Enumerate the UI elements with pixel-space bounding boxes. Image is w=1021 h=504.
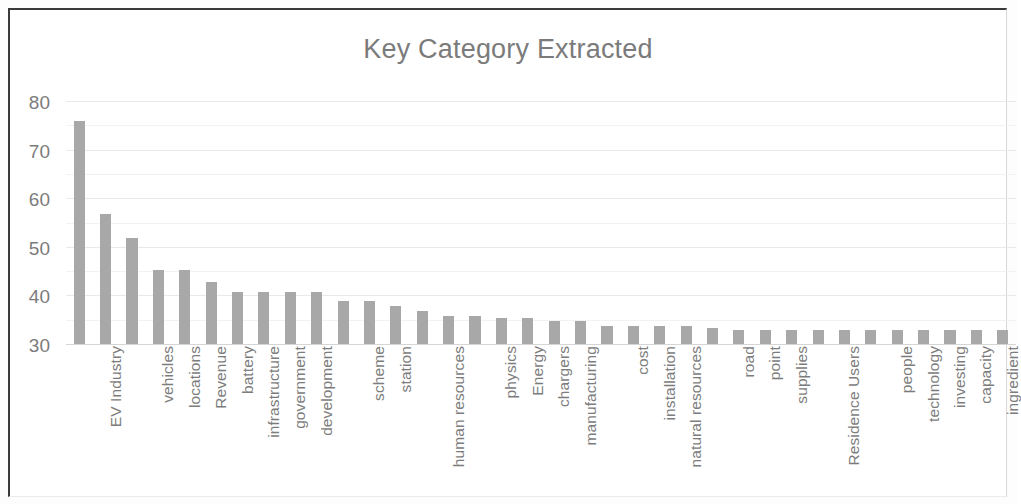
bar: [417, 311, 428, 345]
bar: [179, 270, 190, 345]
x-tick-label: investing: [952, 346, 968, 408]
x-tick-label: Residence Users: [846, 346, 862, 466]
y-tick-label: 40: [29, 287, 50, 306]
x-tick-label: supplies: [794, 346, 810, 404]
y-tick-label: 30: [29, 336, 50, 355]
x-tick-label: technology: [926, 346, 942, 422]
bar: [285, 292, 296, 345]
x-tick-label: Energy: [530, 346, 546, 396]
x-tick-label: scheme: [371, 346, 387, 401]
plot-area: [66, 102, 1016, 345]
bar: [206, 282, 217, 345]
bar: [601, 326, 612, 345]
x-tick-label: physics: [503, 346, 519, 398]
bar: [469, 316, 480, 345]
bar: [575, 321, 586, 345]
bar: [997, 330, 1008, 345]
bar: [813, 330, 824, 345]
bar: [628, 326, 639, 345]
x-tick-label: chargers: [556, 346, 572, 407]
bar: [786, 330, 797, 345]
x-tick-label: locations: [187, 346, 203, 408]
x-tick-label: Revenue: [213, 346, 229, 409]
bar: [681, 326, 692, 345]
y-tick-label: 80: [29, 93, 50, 112]
bar: [364, 301, 375, 345]
bar: [549, 321, 560, 345]
bar: [390, 306, 401, 345]
bar: [839, 330, 850, 345]
x-axis-labels: EV IndustryvehicleslocationsRevenuebatte…: [66, 346, 1016, 504]
bar: [654, 326, 665, 345]
x-tick-label: point: [767, 346, 783, 380]
bar: [944, 330, 955, 345]
x-tick-label: vehicles: [160, 346, 176, 403]
x-tick-label: people: [899, 346, 915, 393]
bar: [496, 318, 507, 345]
x-tick-label: human resources: [451, 346, 467, 467]
bar: [971, 330, 982, 345]
bar-series: [66, 102, 1016, 345]
y-axis: 304050607080: [10, 102, 60, 345]
x-tick-label: manufacturing: [583, 346, 599, 446]
bar: [311, 292, 322, 345]
bar: [892, 330, 903, 345]
y-tick-label: 70: [29, 141, 50, 160]
x-tick-label: ingredient: [1005, 346, 1021, 415]
x-tick-label: capacity: [978, 346, 994, 404]
bar: [443, 316, 454, 345]
x-tick-label: cost: [635, 346, 651, 375]
x-tick-label: road: [741, 346, 757, 377]
x-tick-label: station: [398, 346, 414, 392]
bar: [74, 121, 85, 345]
x-tick-label: infrastructure: [266, 346, 282, 438]
x-tick-label: government: [292, 346, 308, 429]
y-tick-label: 50: [29, 238, 50, 257]
bar: [100, 214, 111, 345]
bar: [865, 330, 876, 345]
x-tick-label: EV Industry: [108, 346, 124, 427]
x-tick-label: natural resources: [688, 346, 704, 467]
bar: [232, 292, 243, 345]
chart-frame: Key Category Extracted 304050607080 EV I…: [8, 8, 1007, 497]
bar: [338, 301, 349, 345]
bar: [126, 238, 137, 345]
y-tick-label: 60: [29, 190, 50, 209]
bar: [153, 270, 164, 345]
x-tick-label: battery: [240, 346, 256, 394]
chart-title: Key Category Extracted: [10, 34, 1006, 65]
bar: [733, 330, 744, 345]
bar: [522, 318, 533, 345]
bar: [760, 330, 771, 345]
bar: [707, 328, 718, 345]
bar: [258, 292, 269, 345]
x-tick-label: installation: [662, 346, 678, 420]
bar: [918, 330, 929, 345]
x-tick-label: development: [319, 346, 335, 436]
